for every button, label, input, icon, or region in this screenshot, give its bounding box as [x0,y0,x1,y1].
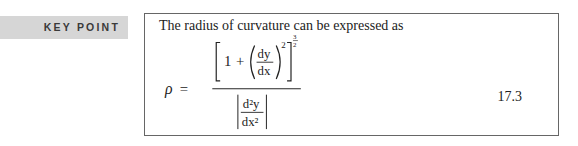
radius-of-curvature-formula: ρ = 1 + dy dx 2 3 2 d²y dx² [145,14,558,135]
svg-text:+: + [236,53,244,69]
svg-text:2: 2 [293,41,297,48]
svg-text:dx: dx [258,64,271,78]
equation-number: 17.3 [498,89,523,105]
key-point-label: KEY POINT [44,21,120,33]
svg-text:2: 2 [281,40,285,50]
svg-text:3: 3 [293,33,297,40]
key-point-box: The radius of curvature can be expressed… [144,13,559,136]
key-point-banner: KEY POINT [0,16,128,39]
equals-sign: = [180,81,188,97]
svg-text:1: 1 [224,53,231,69]
svg-text:dy: dy [258,47,271,61]
rho-symbol: ρ [164,80,173,98]
svg-text:d²y: d²y [243,97,260,111]
svg-text:dx²: dx² [242,115,259,129]
